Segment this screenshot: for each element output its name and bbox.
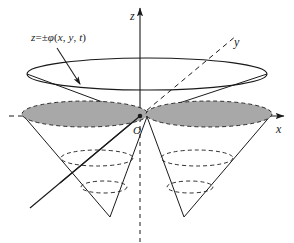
left-cone-inner-edge (110, 114, 148, 217)
eq-close-paren: ) (82, 31, 86, 43)
math-figure: z y x O z=±φ(x, y, t) (0, 0, 294, 243)
lower-cones (22, 114, 272, 217)
left-cone-outer-edge (22, 114, 110, 217)
eq-comma-1: , (63, 31, 66, 43)
surface-equation-label: z=±φ(x, y, t) (31, 31, 86, 43)
shaded-cross-sections (22, 101, 272, 127)
right-shaded-ellipse (146, 101, 272, 127)
right-level-ellipse-upper (161, 150, 233, 166)
right-cone-inner-edge (146, 114, 184, 217)
origin-marker-front (138, 114, 143, 119)
surface-label-pointer-icon (57, 48, 80, 84)
y-axis-label: y (234, 35, 239, 50)
eq-comma-2: , (73, 31, 76, 43)
right-level-ellipse-lower (167, 181, 213, 193)
z-axis-label: z (130, 9, 135, 24)
left-shaded-ellipse (22, 101, 148, 127)
x-axis-label: x (276, 122, 281, 137)
upper-rim-ellipse (27, 58, 267, 90)
right-cone-outer-edge (184, 114, 272, 217)
origin-label: O (133, 124, 141, 136)
